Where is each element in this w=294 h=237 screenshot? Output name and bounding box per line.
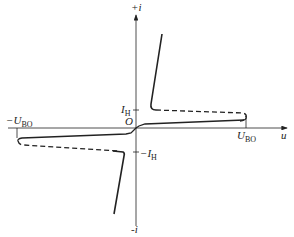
on-state-branch-pos [151,34,162,110]
x-axis-label: u [281,130,287,141]
y-pos-label: +i [131,2,141,13]
iv-characteristic-diagram [0,0,294,237]
breakover-voltage-neg-label: −UBO [6,115,33,129]
breakover-voltage-pos-label: UBO [237,130,256,144]
on-state-branch-neg [113,151,124,214]
blocking-branch-neg [18,128,136,141]
negative-resistance-neg [18,141,118,151]
negative-resistance-pos [156,110,246,121]
holding-current-pos-label: IH [121,104,130,118]
holding-current-neg-label: −IH [140,148,157,162]
y-neg-label: -i [131,224,138,235]
blocking-branch-pos [136,116,246,128]
